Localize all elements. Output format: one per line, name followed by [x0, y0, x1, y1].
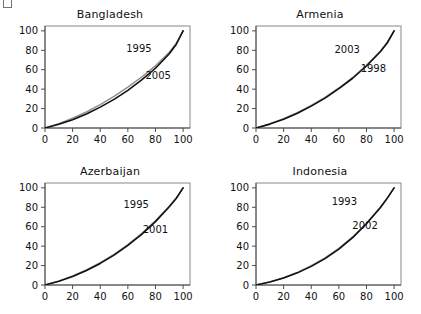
series-curve-1998	[256, 31, 394, 128]
y-tick-label: 0	[243, 280, 249, 291]
x-tick-label: 20	[277, 134, 290, 145]
series-annotation-2003: 2003	[334, 44, 359, 55]
x-tick-label: 40	[305, 134, 318, 145]
x-tick-label: 40	[94, 134, 107, 145]
x-tick-label: 100	[174, 291, 193, 302]
y-tick-label: 100	[230, 182, 249, 193]
series-annotation-2001: 2001	[143, 224, 168, 235]
x-tick-label: 100	[174, 134, 193, 145]
y-tick-label: 80	[236, 202, 249, 213]
axis-lines	[45, 183, 190, 285]
x-tick-label: 100	[385, 291, 404, 302]
y-tick-label: 40	[25, 241, 38, 252]
series-curve-1993	[256, 188, 394, 285]
plot-bangladesh: 02040608010002040608010019952005	[0, 0, 210, 157]
y-tick-label: 40	[236, 84, 249, 95]
y-tick-label: 20	[236, 103, 249, 114]
x-tick-label: 60	[121, 134, 134, 145]
series-curve-2003	[256, 31, 394, 128]
y-tick-label: 20	[25, 103, 38, 114]
series-annotation-1993: 1993	[332, 196, 357, 207]
y-tick-label: 100	[230, 25, 249, 36]
y-tick-label: 0	[32, 123, 38, 134]
x-tick-label: 40	[94, 291, 107, 302]
x-tick-label: 0	[42, 291, 48, 302]
y-tick-label: 60	[25, 221, 38, 232]
plot-frame	[256, 183, 401, 285]
y-tick-label: 40	[236, 241, 249, 252]
series-curve-1995	[45, 188, 183, 285]
axis-lines	[256, 26, 401, 128]
y-tick-label: 0	[243, 123, 249, 134]
series-curve-2002	[256, 188, 394, 285]
panel-bangladesh: Bangladesh 02040608010002040608010019952…	[0, 0, 210, 157]
y-tick-label: 80	[25, 202, 38, 213]
series-annotation-2002: 2002	[352, 220, 377, 231]
axis-lines	[256, 183, 401, 285]
panel-armenia: Armenia 02040608010002040608010020031998	[211, 0, 421, 157]
x-tick-label: 60	[332, 291, 345, 302]
series-annotation-1998: 1998	[361, 63, 386, 74]
plot-frame	[256, 26, 401, 128]
x-tick-label: 80	[360, 291, 373, 302]
y-tick-label: 80	[236, 45, 249, 56]
plot-armenia: 02040608010002040608010020031998	[211, 0, 421, 157]
x-tick-label: 60	[332, 134, 345, 145]
figure-canvas: Bangladesh 02040608010002040608010019952…	[0, 0, 421, 314]
y-tick-label: 60	[236, 221, 249, 232]
y-tick-label: 100	[19, 25, 38, 36]
series-annotation-1995: 1995	[126, 43, 151, 54]
series-annotation-1995: 1995	[123, 199, 148, 210]
series-annotation-2005: 2005	[146, 70, 171, 81]
plot-azerbaijan: 02040608010002040608010019952001	[0, 157, 210, 314]
y-tick-label: 60	[236, 64, 249, 75]
x-tick-label: 80	[149, 291, 162, 302]
x-tick-label: 20	[277, 291, 290, 302]
y-tick-label: 80	[25, 45, 38, 56]
x-tick-label: 60	[121, 291, 134, 302]
plot-frame	[45, 183, 190, 285]
series-curve-2001	[45, 188, 183, 285]
x-tick-label: 80	[149, 134, 162, 145]
x-tick-label: 0	[42, 134, 48, 145]
x-tick-label: 40	[305, 291, 318, 302]
y-tick-label: 100	[19, 182, 38, 193]
panel-azerbaijan: Azerbaijan 02040608010002040608010019952…	[0, 157, 210, 314]
x-tick-label: 20	[66, 134, 79, 145]
x-tick-label: 0	[253, 134, 259, 145]
x-tick-label: 100	[385, 134, 404, 145]
y-tick-label: 20	[25, 260, 38, 271]
x-tick-label: 20	[66, 291, 79, 302]
panel-indonesia: Indonesia 020406080100020406080100199320…	[211, 157, 421, 314]
y-tick-label: 40	[25, 84, 38, 95]
plot-indonesia: 02040608010002040608010019932002	[211, 157, 421, 314]
y-tick-label: 0	[32, 280, 38, 291]
x-tick-label: 0	[253, 291, 259, 302]
y-tick-label: 20	[236, 260, 249, 271]
y-tick-label: 60	[25, 64, 38, 75]
x-tick-label: 80	[360, 134, 373, 145]
